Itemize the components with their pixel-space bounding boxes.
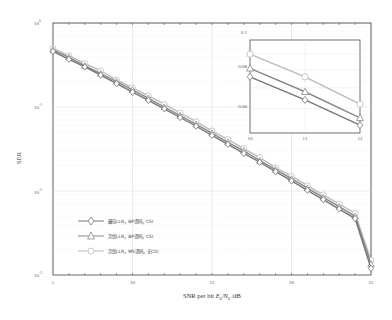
x-tick-10: 10 [130,280,136,285]
legend-item-2: 次优LLR，BP译码，CSI [108,233,153,240]
inset-x-tick-10: 10 [248,136,254,141]
x-tick-25: 25 [369,280,375,285]
circle-marker-icon [357,101,363,107]
x-tick-20: 20 [289,280,295,285]
y-tick-3: 10-3 [34,271,42,278]
inset-y-tick-0.08: 0.08 [238,64,247,69]
inset-x-tick-11: 11 [303,136,308,141]
inset-y-tick-0.1: 0.1 [241,30,248,35]
circle-marker-icon [302,74,308,80]
y-tick-1: 10-1 [34,103,42,110]
inset-x-tick-12: 12 [358,136,364,141]
inset-plot: 0.1 0.08 0.06 10 11 12 [238,30,363,141]
inset-y-tick-0.06: 0.06 [238,104,247,109]
legend: 最佳LLR，BP译码，CSI 次优LLR，BP译码，CSI 次优LLR，MS译码… [78,217,158,255]
x-tick-15: 15 [210,280,216,285]
y-axis-label: SER [15,151,22,164]
legend-item-3: 次优LLR，MS译码，无CSI [108,248,158,255]
y-tick-0: 100 [34,19,41,26]
x-axis: 5 10 15 20 25 SNR per bit Eb/N0 /dB [52,280,374,301]
x-tick-5: 5 [52,280,55,285]
legend-item-1: 最佳LLR，BP译码，CSI [108,218,153,225]
x-axis-label: SNR per bit Eb/N0 /dB [183,292,242,301]
y-tick-2: 10-2 [34,188,42,195]
circle-marker-icon [247,51,253,57]
y-axis: 100 10-1 10-2 10-3 SER [15,19,42,278]
circle-marker-icon [88,248,94,254]
ser-chart: 100 10-1 10-2 10-3 SER 5 10 15 20 25 SNR… [0,0,392,320]
